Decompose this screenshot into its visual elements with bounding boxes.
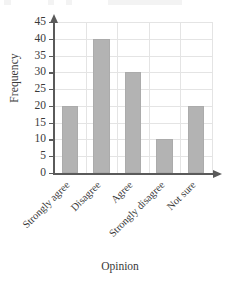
- y-axis-tick-mark: [49, 39, 54, 40]
- x-axis-tick-label: Agree: [109, 179, 135, 205]
- x-axis-tick-label: Strongly disagree: [106, 179, 166, 239]
- gridline: [149, 22, 150, 173]
- y-axis-tick-mark: [49, 89, 54, 90]
- y-axis-tick-mark: [49, 56, 54, 57]
- y-axis-tick-mark: [49, 123, 54, 124]
- y-axis-tick-label: 5: [0, 150, 46, 161]
- y-axis-line: [53, 22, 55, 174]
- y-axis-tick-label: 10: [0, 133, 46, 144]
- bar: [125, 72, 141, 173]
- y-axis-tick-label: 45: [0, 16, 46, 27]
- y-axis-tick-label: 35: [0, 50, 46, 61]
- y-axis-tick-label: 15: [0, 117, 46, 128]
- clipped-text-artifact: [66, 0, 72, 5]
- gridline: [54, 56, 212, 57]
- clipped-text-artifact: [48, 0, 54, 5]
- plot-area: [54, 22, 212, 173]
- x-axis-arrow-icon: [213, 170, 222, 178]
- gridline: [212, 22, 213, 173]
- x-axis-tick-label: Not sure: [165, 179, 198, 212]
- gridline: [180, 22, 181, 173]
- y-axis-tick-label: 20: [0, 100, 46, 111]
- y-axis-tick-mark: [49, 106, 54, 107]
- bar-chart-figure: Frequency 051015202530354045 Strongly ag…: [0, 0, 240, 282]
- bar: [93, 39, 109, 173]
- y-axis-tick-mark: [49, 22, 54, 23]
- gridline: [117, 22, 118, 173]
- y-axis-tick-label: 25: [0, 83, 46, 94]
- y-axis-tick-label: 30: [0, 66, 46, 77]
- bar: [156, 139, 172, 173]
- x-axis-title: Opinion: [0, 260, 240, 272]
- y-axis-tick-mark: [49, 72, 54, 73]
- y-axis-tick-label: 0: [0, 167, 46, 178]
- bar: [62, 106, 78, 173]
- bar: [188, 106, 204, 173]
- y-axis-tick-mark: [49, 156, 54, 157]
- y-axis-tick-labels: 051015202530354045: [0, 0, 46, 282]
- gridline: [54, 22, 212, 23]
- gridline: [86, 22, 87, 173]
- clipped-text-artifact: [108, 0, 182, 5]
- y-axis-tick-mark: [49, 173, 54, 174]
- y-axis-tick-label: 40: [0, 33, 46, 44]
- gridline: [54, 39, 212, 40]
- x-axis-tick-label: Disagree: [69, 179, 103, 213]
- y-axis-tick-mark: [49, 139, 54, 140]
- x-axis-line: [53, 173, 215, 175]
